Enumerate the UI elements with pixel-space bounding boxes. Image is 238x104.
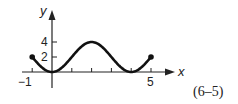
left-endpoint-dot: [29, 54, 35, 60]
x-tick-label-5: 5: [147, 75, 154, 89]
x-axis-arrow-icon: [165, 69, 175, 76]
x-tick-label-neg1: −1: [18, 75, 32, 89]
figure-reference: (6–5): [193, 84, 223, 100]
y-tick-label-2: 2: [41, 50, 48, 64]
right-endpoint-dot: [148, 54, 154, 60]
function-curve: [32, 42, 151, 72]
x-axis-label: x: [177, 64, 185, 79]
y-axis-label: y: [39, 3, 48, 18]
y-tick-label-4: 4: [41, 35, 48, 49]
y-axis-arrow-icon: [49, 10, 56, 20]
y-ticks: [52, 42, 57, 57]
